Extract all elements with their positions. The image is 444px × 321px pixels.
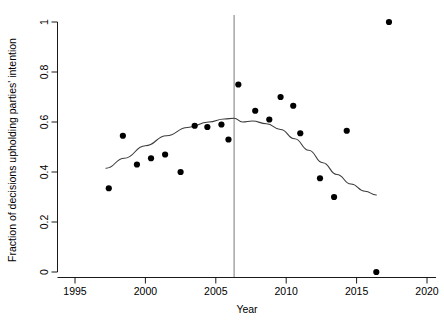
x-axis-title: Year: [236, 303, 258, 315]
x-tick-label-5: 2020: [415, 285, 439, 297]
x-tick-label-3: 2010: [275, 285, 299, 297]
data-point: [297, 130, 303, 136]
y-axis-ticks: [52, 22, 58, 272]
x-tick-label-0: 1995: [63, 285, 87, 297]
y-tick-label-1: 0.2: [38, 215, 50, 230]
data-point: [386, 19, 392, 25]
x-tick-label-4: 2015: [345, 285, 369, 297]
data-point: [162, 151, 168, 157]
data-point: [266, 116, 272, 122]
data-point: [204, 124, 210, 130]
y-tick-label-0: 0: [38, 269, 50, 275]
data-point: [344, 128, 350, 134]
trend-line: [106, 118, 376, 195]
data-point: [277, 94, 283, 100]
y-tick-label-3: 0.6: [38, 115, 50, 130]
data-point: [331, 194, 337, 200]
data-point: [225, 136, 231, 142]
scatter-plot: 0 0.2 0.4 0.6 0.8 1 1995 2000 2005 2010 …: [0, 0, 444, 321]
y-axis-title: Fraction of decisions upholding parties'…: [6, 38, 18, 262]
y-axis-tick-labels: 0 0.2 0.4 0.6 0.8 1: [38, 19, 50, 275]
x-tick-label-1: 2000: [134, 285, 158, 297]
data-point: [373, 269, 379, 275]
data-point: [317, 175, 323, 181]
x-axis-tick-labels: 1995 2000 2005 2010 2015 2020: [63, 285, 439, 297]
data-point: [134, 161, 140, 167]
data-point: [148, 155, 154, 161]
data-point: [106, 185, 112, 191]
data-point: [178, 169, 184, 175]
data-point: [252, 108, 258, 114]
y-tick-label-5: 1: [38, 19, 50, 25]
data-point: [290, 103, 296, 109]
chart-container: 0 0.2 0.4 0.6 0.8 1 1995 2000 2005 2010 …: [0, 0, 444, 321]
x-tick-label-2: 2005: [204, 285, 228, 297]
y-tick-label-4: 0.8: [38, 65, 50, 80]
data-point: [192, 123, 198, 129]
y-tick-label-2: 0.4: [38, 165, 50, 180]
data-point: [235, 81, 241, 87]
data-point: [218, 121, 224, 127]
x-axis-ticks: [75, 278, 427, 284]
data-points-group: [106, 19, 392, 275]
data-point: [120, 133, 126, 139]
